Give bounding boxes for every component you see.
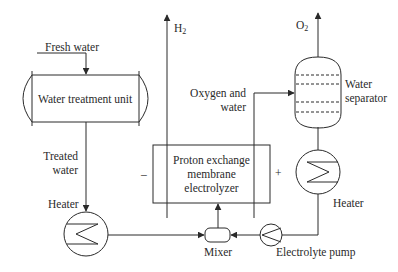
separator-label-line2: separator [345,91,387,105]
fresh-water-stream [37,53,86,74]
electrolyzer-label-line1: Proton exchange [153,153,270,167]
treated-water-label-line2: water [38,163,78,177]
h2-label: H2 [174,21,186,39]
electrolyzer-label-line3: electrolyzer [153,181,270,195]
oxygen-water-label-line2: water [186,100,246,114]
heater-1-shape [64,212,108,256]
mixer-label: Mixer [204,245,232,259]
heater2-to-pump-stream [282,194,318,235]
heater-1-label: Heater [48,197,79,211]
cathode-minus-sign: – [141,167,147,181]
oxygen-water-label-line1: Oxygen and [186,86,246,100]
separator-label-line1: Water [345,77,372,91]
water-separator-shape [295,57,341,128]
pump-label: Electrolyte pump [276,245,356,259]
fresh-water-label: Fresh water [45,40,99,54]
water-treatment-unit-label: Water treatment unit [38,92,132,106]
heater-2-shape [296,150,340,194]
o2-label: O2 [296,18,308,36]
anode-plus-sign: + [275,166,282,180]
heater-2-label: Heater [333,196,364,210]
treated-water-label-line1: Treated [38,149,78,163]
pump-shape [260,224,282,246]
electrolyzer-label-line2: membrane [153,167,270,181]
mixer-shape [205,204,230,242]
